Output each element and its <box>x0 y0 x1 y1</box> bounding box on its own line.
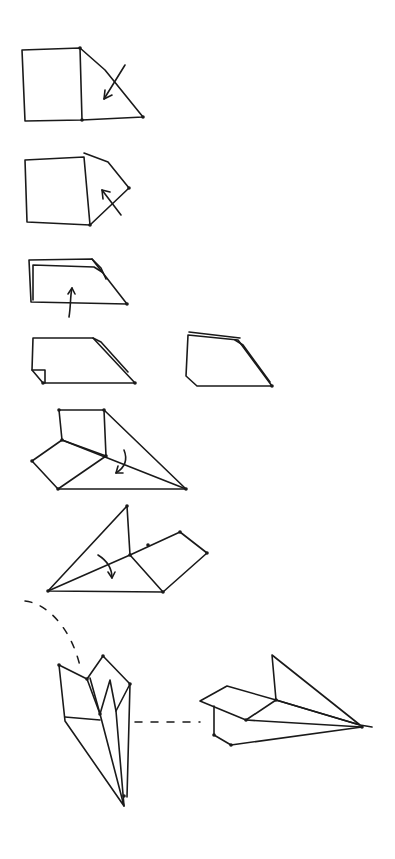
fold-line <box>58 456 106 489</box>
vertex-dot <box>360 725 364 729</box>
fold-line <box>235 340 270 382</box>
fold-line <box>48 506 207 592</box>
vertex-dot <box>146 543 150 547</box>
vertex-dot <box>101 654 105 658</box>
fold-line <box>59 410 106 456</box>
fold-line <box>32 410 186 489</box>
vertex-dot <box>56 487 60 491</box>
vertex-dot <box>161 590 165 594</box>
step-4b-folded-flap-back <box>186 332 274 388</box>
fold-line <box>116 684 130 711</box>
vertex-dot <box>205 551 209 555</box>
vertex-dot <box>102 408 106 412</box>
vertex-dot <box>133 381 137 385</box>
vertex-dot <box>229 743 233 747</box>
vertex-dot <box>57 663 61 667</box>
vertex-dot <box>127 186 131 190</box>
fold-line <box>200 686 276 720</box>
trajectory-curve <box>25 601 80 666</box>
vertex-dot <box>274 698 278 702</box>
folding-diagram <box>0 0 395 859</box>
step-6-fold-other-wing <box>46 504 209 594</box>
fold-line <box>130 555 163 592</box>
vertex-dot <box>60 438 64 442</box>
vertex-dot <box>184 487 188 491</box>
vertex-dot <box>125 504 129 508</box>
fold-line <box>84 153 129 225</box>
vertex-dot <box>178 530 182 534</box>
vertex-dot <box>128 553 132 557</box>
vertex-dot <box>80 118 84 122</box>
fold-line <box>186 335 272 386</box>
fold-arrow-icon <box>104 65 125 99</box>
vertex-dot <box>104 454 108 458</box>
vertex-dot <box>46 589 50 593</box>
fold-line <box>80 48 143 120</box>
fold-line <box>100 680 124 806</box>
fold-line <box>87 656 130 797</box>
fold-line <box>33 265 102 300</box>
vertex-dot <box>98 712 102 716</box>
fold-line <box>90 678 100 714</box>
vertex-dot <box>244 718 248 722</box>
fold-line <box>32 338 135 383</box>
vertex-dot <box>85 677 89 681</box>
vertex-dot <box>125 302 129 306</box>
step-4a-folded-flap-front <box>32 338 137 385</box>
fold-line <box>272 655 360 725</box>
vertex-dot <box>141 115 145 119</box>
vertex-dot <box>128 682 132 686</box>
vertex-dot <box>212 733 216 737</box>
vertex-dot <box>78 46 82 50</box>
step-7a-airplane-front-view <box>57 654 132 806</box>
fold-line <box>65 717 100 720</box>
step-1-fold-corner-down <box>22 46 145 122</box>
step-7b-airplane-side-view <box>200 655 372 747</box>
fold-line <box>48 555 130 591</box>
fold-line <box>25 157 90 225</box>
vertex-dot <box>41 381 45 385</box>
vertex-dot <box>88 223 92 227</box>
step-2-fold-corner-back <box>25 153 131 227</box>
vertex-dot <box>57 408 61 412</box>
diagram-canvas <box>0 0 395 859</box>
step-3-fold-up-edge <box>29 259 129 317</box>
vertex-dot <box>30 459 34 463</box>
step-5-fold-wing-down <box>30 408 188 491</box>
vertex-dot <box>270 384 274 388</box>
fold-line <box>22 48 82 121</box>
vertex-dot <box>122 794 126 798</box>
